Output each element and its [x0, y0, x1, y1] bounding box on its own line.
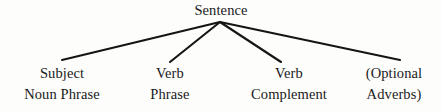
leaf-node-optional-adverbs: (Optional Adverbs) — [344, 63, 442, 105]
edge-to-optional-adverbs — [220, 22, 400, 60]
sentence-tree-diagram: Sentence Subject Noun Phrase Verb Phrase… — [0, 0, 442, 111]
leaf-label-line2: Phrase — [126, 84, 214, 105]
leaf-label-line1: Subject — [0, 63, 128, 84]
leaf-label-line2: Complement — [228, 84, 350, 105]
leaf-node-verb-phrase: Verb Phrase — [126, 63, 214, 105]
leaf-node-subject-noun-phrase: Subject Noun Phrase — [0, 63, 128, 105]
leaf-label-line2: Noun Phrase — [0, 84, 128, 105]
leaf-label-line1: Verb — [126, 63, 214, 84]
leaf-label-line1: Verb — [228, 63, 350, 84]
leaf-label-line1: (Optional — [344, 63, 442, 84]
leaf-node-verb-complement: Verb Complement — [228, 63, 350, 105]
root-node-sentence: Sentence — [0, 2, 442, 18]
leaf-label-line2: Adverbs) — [344, 84, 442, 105]
